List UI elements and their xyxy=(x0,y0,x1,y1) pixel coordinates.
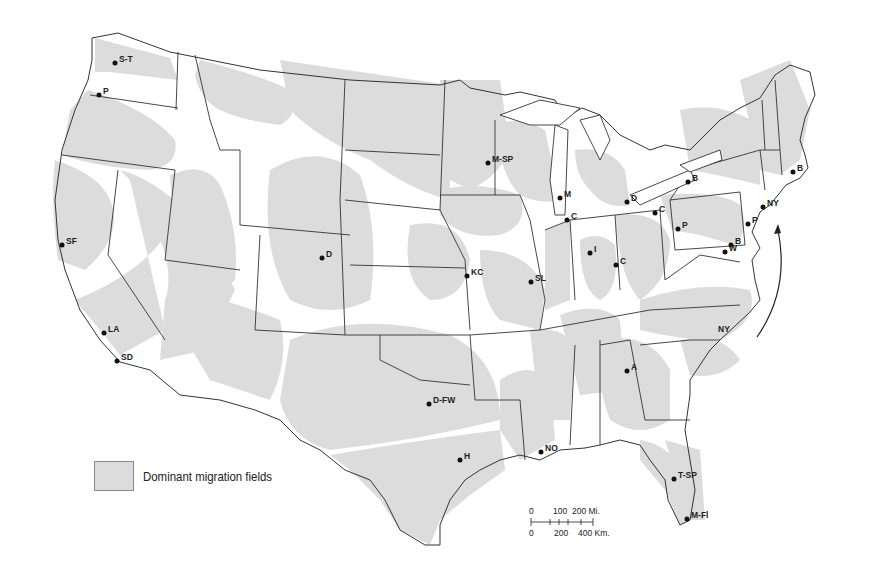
city-dot-icon xyxy=(565,218,570,223)
city-label: P xyxy=(103,86,109,96)
city-label: SD xyxy=(121,352,133,362)
city-dot-icon xyxy=(60,243,65,248)
city-dot-icon xyxy=(539,450,544,455)
city-dot-icon xyxy=(686,180,691,185)
city-dot-icon xyxy=(723,250,728,255)
city-dot-icon xyxy=(625,200,630,205)
city-dot-icon xyxy=(320,256,325,261)
city-dot-icon xyxy=(115,359,120,364)
city-label: S-T xyxy=(119,54,134,64)
city-label: B xyxy=(797,163,803,173)
city-dot-icon xyxy=(458,458,463,463)
city-label: NO xyxy=(545,443,558,453)
city-label: H xyxy=(464,451,470,461)
city-dot-icon xyxy=(486,161,491,166)
city-label: M xyxy=(564,189,571,199)
city-label: A xyxy=(631,362,637,372)
legend-label: Dominant migration fields xyxy=(143,469,272,484)
city-dot-icon xyxy=(746,222,751,227)
map-annotations: NY xyxy=(718,324,730,334)
city-label: NY xyxy=(767,198,779,208)
scale-mi-0: 0 xyxy=(529,506,534,516)
city-label: B xyxy=(692,173,698,183)
legend-swatch xyxy=(94,461,134,491)
city-marker: P xyxy=(97,86,110,98)
city-dot-icon xyxy=(113,61,118,66)
city-dot-icon xyxy=(614,263,619,268)
city-dot-icon xyxy=(676,227,681,232)
city-marker: NY xyxy=(761,198,780,210)
city-label: M-SP xyxy=(492,154,514,164)
city-dot-icon xyxy=(558,196,563,201)
scale-km-400: 400 Km. xyxy=(578,528,610,538)
scale-km-200: 200 xyxy=(554,528,568,538)
city-label: SL xyxy=(535,273,546,283)
city-marker: P xyxy=(746,215,759,227)
city-dot-icon xyxy=(761,205,766,210)
city-label: SF xyxy=(66,236,77,246)
city-label: I xyxy=(594,244,596,254)
city-dot-icon xyxy=(97,93,102,98)
city-label: C xyxy=(620,256,626,266)
city-label: D xyxy=(326,249,332,259)
annotation-label: NY xyxy=(718,324,730,334)
city-label: P xyxy=(752,215,758,225)
scale-km-0: 0 xyxy=(529,528,534,538)
city-marker: C xyxy=(565,211,578,223)
city-dot-icon xyxy=(588,251,593,256)
scale-bar: 0 100 200 Mi. 0 200 400 Km. xyxy=(528,503,648,543)
city-label: LA xyxy=(108,324,119,334)
city-dot-icon xyxy=(672,477,677,482)
city-label: P xyxy=(682,220,688,230)
city-label: KC xyxy=(471,267,483,277)
city-dot-icon xyxy=(529,280,534,285)
city-label: C xyxy=(571,211,577,221)
city-label: D xyxy=(631,193,637,203)
city-marker: C xyxy=(653,204,666,216)
city-dot-icon xyxy=(653,211,658,216)
legend: Dominant migration fields xyxy=(94,461,290,491)
city-label: C xyxy=(659,204,665,214)
scale-mi-100: 100 xyxy=(553,506,567,516)
city-dot-icon xyxy=(102,331,107,336)
city-label: M-Fl xyxy=(691,510,708,520)
city-dot-icon xyxy=(465,274,470,279)
city-marker: SD xyxy=(115,352,133,364)
city-dot-icon xyxy=(791,170,796,175)
migration-arrow xyxy=(757,230,781,337)
city-dot-icon xyxy=(685,517,690,522)
city-label: D-FW xyxy=(433,395,456,405)
scale-mi-200: 200 Mi. xyxy=(572,506,600,516)
city-dot-icon xyxy=(625,369,630,374)
city-dot-icon xyxy=(427,402,432,407)
arrow-head-icon xyxy=(774,224,781,234)
city-label: W xyxy=(729,243,738,253)
city-marker: W xyxy=(723,243,739,255)
city-label: T-SP xyxy=(678,470,697,480)
